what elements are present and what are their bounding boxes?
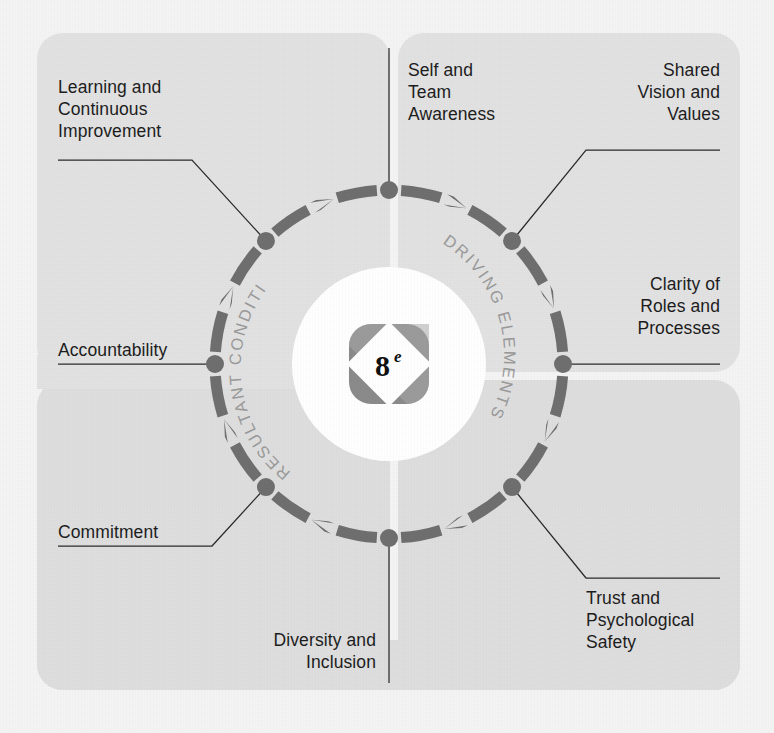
label-line: Self and xyxy=(408,60,473,80)
ring-node-accountability[interactable] xyxy=(206,355,224,373)
label-line: Clarity of xyxy=(650,274,720,294)
label-line: Vision and xyxy=(638,82,720,102)
diagram-canvas: DRIVING ELEMENTS RESULTANT CONDITIONS xyxy=(0,0,774,733)
eight-e-model-svg: DRIVING ELEMENTS RESULTANT CONDITIONS xyxy=(0,0,774,733)
label-line: Trust and xyxy=(586,588,660,608)
label-line: Shared xyxy=(663,60,720,80)
label-line: Diversity and xyxy=(274,630,376,650)
ring-node-learning-and-continuous-improvement[interactable] xyxy=(257,232,275,250)
label-line: Psychological xyxy=(586,610,694,630)
label-accountability[interactable]: Accountability xyxy=(58,340,168,360)
label-line: Inclusion xyxy=(306,652,376,672)
label-clarity-of-roles-and-processes[interactable]: Clarity of Roles and Processes xyxy=(637,274,720,338)
label-line: Team xyxy=(408,82,451,102)
label-line: Values xyxy=(667,104,720,124)
label-line: Awareness xyxy=(408,104,495,124)
ring-node-trust-and-psychological-safety[interactable] xyxy=(503,478,521,496)
center-logo: 8 e xyxy=(347,322,432,407)
label-line: Continuous xyxy=(58,99,148,119)
ring-node-self-and-team-awareness[interactable] xyxy=(380,181,398,199)
label-line: Accountability xyxy=(58,340,168,360)
label-line: Safety xyxy=(586,632,636,652)
label-line: Learning and xyxy=(58,77,161,97)
logo-suffix: e xyxy=(394,347,402,366)
ring-node-clarity-of-roles-and-processes[interactable] xyxy=(554,355,572,373)
ring-node-diversity-and-inclusion[interactable] xyxy=(380,529,398,547)
ring-node-commitment[interactable] xyxy=(257,478,275,496)
ring-node-shared-vision-and-values[interactable] xyxy=(503,232,521,250)
label-line: Processes xyxy=(637,318,720,338)
label-line: Improvement xyxy=(58,121,161,141)
label-line: Roles and xyxy=(640,296,720,316)
label-commitment[interactable]: Commitment xyxy=(58,522,158,542)
label-learning-and-continuous-improvement[interactable]: Learning and Continuous Improvement xyxy=(58,77,161,141)
label-line: Commitment xyxy=(58,522,158,542)
logo-number: 8 xyxy=(375,349,390,382)
